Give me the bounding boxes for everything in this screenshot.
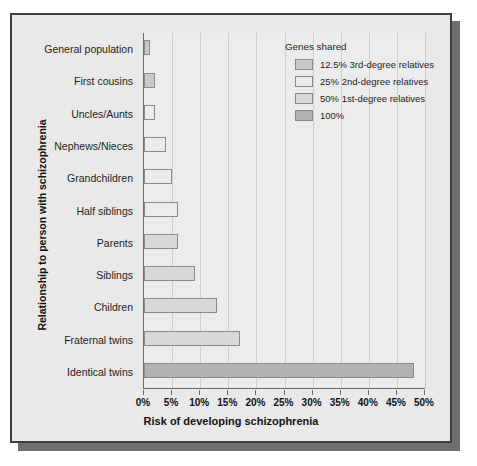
x-axis-tick (340, 390, 341, 395)
y-axis-tick-label: Identical twins (5, 366, 133, 378)
bar (144, 137, 166, 152)
y-axis-tick-label: General population (5, 43, 133, 55)
bar-row (144, 291, 425, 321)
legend-swatch (295, 93, 313, 104)
x-axis-tick (424, 390, 425, 395)
legend-item: 50% 1st-degree relatives (285, 90, 434, 107)
legend-swatch (295, 59, 313, 70)
y-axis-tick-label: Nephews/Nieces (5, 140, 133, 152)
x-axis-tick (312, 390, 313, 395)
legend-item: 25% 2nd-degree relatives (285, 73, 434, 90)
bar (144, 298, 217, 313)
y-axis-tick-label: Parents (5, 237, 133, 249)
legend-label: 12.5% 3rd-degree relatives (320, 59, 434, 70)
x-axis-tick-label: 50% (404, 397, 444, 408)
bar-row (144, 259, 425, 289)
legend-label: 25% 2nd-degree relatives (320, 76, 428, 87)
bar (144, 266, 195, 281)
bar-row (144, 130, 425, 160)
x-axis-tick (227, 390, 228, 395)
legend-label: 100% (320, 110, 344, 121)
x-axis-tick (284, 390, 285, 395)
bar (144, 363, 414, 378)
bar (144, 169, 172, 184)
figure-frame: Relationship to person with schizophreni… (10, 13, 452, 443)
bar-row (144, 227, 425, 257)
x-axis-tick (171, 390, 172, 395)
bar-row (144, 323, 425, 353)
bar (144, 105, 155, 120)
x-axis-tick (255, 390, 256, 395)
y-axis-tick-label: Half siblings (5, 205, 133, 217)
legend-label: 50% 1st-degree relatives (320, 93, 425, 104)
y-axis-tick-label: Grandchildren (5, 172, 133, 184)
legend-item: 12.5% 3rd-degree relatives (285, 56, 434, 73)
bar (144, 331, 240, 346)
x-axis-title: Risk of developing schizophrenia (12, 415, 450, 427)
legend-title: Genes shared (285, 41, 434, 52)
legend-swatch (295, 76, 313, 87)
bar (144, 73, 155, 88)
legend: Genes shared 12.5% 3rd-degree relatives2… (285, 41, 434, 124)
x-axis-tick (396, 390, 397, 395)
y-axis-tick-label: Fraternal twins (5, 334, 133, 346)
x-axis-tick (368, 390, 369, 395)
plot-area: Genes shared 12.5% 3rd-degree relatives2… (143, 33, 425, 389)
figure-root: Relationship to person with schizophreni… (0, 0, 477, 466)
bar (144, 202, 178, 217)
legend-item: 100% (285, 107, 434, 124)
y-axis-tick-label: Siblings (5, 269, 133, 281)
x-axis-tick (199, 390, 200, 395)
legend-items: 12.5% 3rd-degree relatives25% 2nd-degree… (285, 56, 434, 124)
x-axis-tick (143, 390, 144, 395)
bar-row (144, 356, 425, 386)
bar-row (144, 194, 425, 224)
bar-row (144, 162, 425, 192)
bar (144, 234, 178, 249)
y-axis-tick-label: First cousins (5, 75, 133, 87)
legend-swatch (295, 110, 313, 121)
bar (144, 40, 150, 55)
y-axis-tick-label: Uncles/Aunts (5, 108, 133, 120)
y-axis-tick-label: Children (5, 301, 133, 313)
